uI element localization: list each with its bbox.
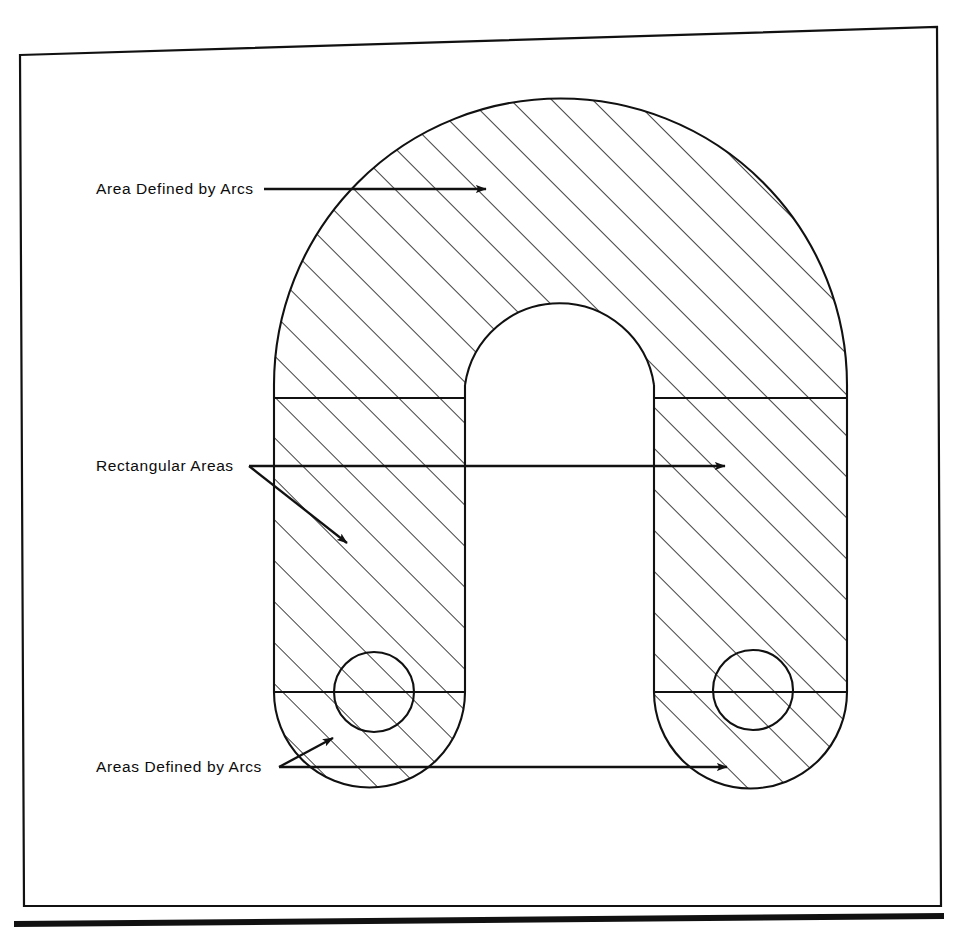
figure-root: Area Defined by Arcs Rectangular Areas A… — [0, 0, 958, 933]
label-rectangular-areas: Rectangular Areas — [96, 457, 234, 474]
hatch-pattern-fill — [250, 70, 880, 830]
technical-drawing-canvas: Area Defined by Arcs Rectangular Areas A… — [0, 0, 958, 933]
hatched-body-fill — [250, 70, 880, 830]
label-area-defined-by-arcs: Area Defined by Arcs — [96, 180, 254, 197]
annotation-labels: Area Defined by Arcs Rectangular Areas A… — [96, 180, 262, 775]
page-bottom-rule — [14, 916, 944, 924]
label-areas-defined-by-arcs: Areas Defined by Arcs — [96, 758, 262, 775]
